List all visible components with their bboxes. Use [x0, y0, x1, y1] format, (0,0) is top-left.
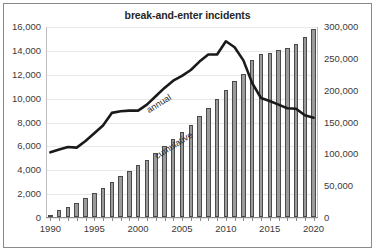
- x-axis-tick: [138, 218, 139, 221]
- chart-screenshot: break-and-enter incidents annual cumulat…: [0, 0, 375, 251]
- bar: [101, 188, 106, 217]
- left-axis-tick-label: 6,000: [17, 141, 41, 151]
- bar: [241, 74, 246, 217]
- left-axis-tick-label: 8,000: [17, 118, 41, 128]
- x-axis-tick: [147, 218, 148, 221]
- bar: [127, 171, 132, 218]
- x-axis-tick: [156, 218, 157, 221]
- x-axis-tick: [279, 218, 280, 221]
- x-axis-tick: [261, 218, 262, 221]
- bar: [92, 193, 97, 217]
- plot-area: annual cumulative: [46, 27, 318, 218]
- x-axis-tick: [296, 218, 297, 221]
- gridline: [46, 27, 318, 28]
- left-axis-tick-label: 14,000: [12, 46, 41, 56]
- right-axis-line: [317, 27, 318, 218]
- bar: [136, 165, 141, 217]
- x-axis-tick: [59, 218, 60, 221]
- bar: [268, 53, 273, 217]
- left-axis-tick-label: 10,000: [12, 94, 41, 104]
- bar: [215, 99, 220, 217]
- left-axis-line: [46, 27, 47, 218]
- bar: [145, 160, 150, 217]
- x-axis-tick: [314, 218, 315, 221]
- x-axis-tick: [305, 218, 306, 221]
- left-axis-tick-label: 16,000: [12, 22, 41, 32]
- bar: [197, 116, 202, 217]
- right-axis-tick-label: 200,000: [324, 86, 358, 96]
- x-axis-tick: [252, 218, 253, 221]
- chart-canvas: break-and-enter incidents annual cumulat…: [0, 0, 375, 251]
- x-axis-tick: [112, 218, 113, 221]
- x-axis-tick: [217, 218, 218, 221]
- x-axis-tick: [121, 218, 122, 221]
- bar: [276, 50, 281, 217]
- bar: [259, 54, 264, 217]
- x-axis-tick: [50, 218, 51, 221]
- bar: [66, 207, 71, 217]
- x-axis-tick-label: 2010: [206, 224, 246, 234]
- bar: [206, 108, 211, 218]
- x-axis-tick: [243, 218, 244, 221]
- right-axis-tick-label: 0: [324, 213, 329, 223]
- x-axis-tick-label: 2005: [162, 224, 202, 234]
- x-axis-tick: [129, 218, 130, 221]
- left-axis-tick-label: 12,000: [12, 70, 41, 80]
- left-axis-tick-label: 4,000: [17, 165, 41, 175]
- right-axis-tick-label: 300,000: [324, 22, 358, 32]
- bar: [57, 210, 62, 217]
- x-axis-tick-label: 2015: [250, 224, 290, 234]
- bar: [303, 37, 308, 217]
- x-axis-tick: [191, 218, 192, 221]
- x-axis-tick-label: 1990: [30, 224, 70, 234]
- bar: [232, 81, 237, 217]
- x-axis-tick: [235, 218, 236, 221]
- x-axis-tick: [182, 218, 183, 221]
- x-axis-tick: [226, 218, 227, 221]
- x-axis-tick: [165, 218, 166, 221]
- x-axis-tick: [208, 218, 209, 221]
- x-axis-tick: [77, 218, 78, 221]
- chart-title: break-and-enter incidents: [0, 9, 375, 21]
- right-axis-tick-label: 50,000: [324, 181, 353, 191]
- bar: [118, 176, 123, 217]
- bar: [250, 60, 255, 217]
- x-axis-tick: [103, 218, 104, 221]
- bar: [153, 153, 158, 217]
- x-axis-tick: [270, 218, 271, 221]
- x-axis-tick: [173, 218, 174, 221]
- x-axis-tick: [200, 218, 201, 221]
- x-axis-tick-label: 2020: [294, 224, 334, 234]
- x-axis-tick: [94, 218, 95, 221]
- x-axis-tick: [68, 218, 69, 221]
- bar: [294, 44, 299, 217]
- left-axis-tick-label: 2,000: [17, 189, 41, 199]
- x-axis-tick-label: 2000: [118, 224, 158, 234]
- x-axis-tick: [86, 218, 87, 221]
- x-axis-tick-label: 1995: [74, 224, 114, 234]
- right-axis-tick-label: 100,000: [324, 149, 358, 159]
- right-axis-tick-label: 150,000: [324, 118, 358, 128]
- right-axis-tick-label: 250,000: [324, 54, 358, 64]
- bar: [83, 198, 88, 217]
- bar: [110, 182, 115, 217]
- bar: [285, 48, 290, 217]
- left-axis-tick-label: 0: [36, 213, 41, 223]
- bar: [224, 90, 229, 217]
- bar: [74, 203, 79, 217]
- bar: [311, 29, 316, 217]
- x-axis-tick: [287, 218, 288, 221]
